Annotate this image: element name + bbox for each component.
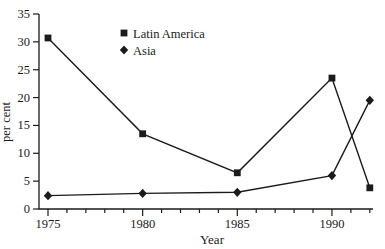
chart-svg: 051015202530351975198019851990Yearper ce…: [0, 0, 385, 249]
line-chart: 051015202530351975198019851990Yearper ce…: [0, 0, 385, 249]
legend-marker-square: [121, 30, 128, 37]
y-tick-label: 20: [18, 91, 31, 105]
y-tick-label: 0: [24, 202, 30, 216]
legend-label-latin-america: Latin America: [133, 27, 205, 41]
data-point-asia: [138, 189, 146, 198]
x-tick-label: 1975: [36, 217, 61, 231]
legend-marker-diamond: [120, 45, 128, 54]
data-point-asia: [44, 191, 52, 200]
data-point-latin-america: [139, 130, 146, 137]
y-tick-label: 25: [18, 63, 31, 77]
legend-label-asia: Asia: [133, 44, 156, 58]
chart-page: 051015202530351975198019851990Yearper ce…: [0, 0, 385, 249]
x-axis-title: Year: [200, 232, 225, 247]
axis-lines: [39, 14, 373, 209]
series-line-asia: [48, 100, 370, 195]
data-point-latin-america: [329, 75, 336, 82]
y-tick-label: 15: [18, 118, 31, 132]
y-tick-label: 10: [18, 146, 31, 160]
data-point-asia: [366, 96, 374, 105]
x-tick-label: 1985: [225, 217, 250, 231]
series-line-latin-america: [48, 38, 370, 188]
y-tick-label: 5: [24, 174, 30, 188]
data-point-latin-america: [366, 184, 373, 191]
y-tick-label: 35: [18, 7, 31, 21]
data-point-latin-america: [234, 169, 241, 176]
x-tick-label: 1980: [130, 217, 155, 231]
y-tick-label: 30: [18, 35, 31, 49]
data-point-asia: [328, 171, 336, 180]
data-point-asia: [233, 188, 241, 197]
data-point-latin-america: [45, 35, 52, 42]
y-axis-title: per cent: [0, 102, 13, 142]
x-tick-label: 1990: [319, 217, 344, 231]
